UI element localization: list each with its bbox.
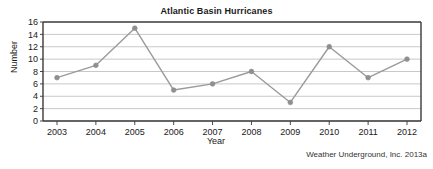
data-point-marker bbox=[249, 69, 254, 74]
y-tick-label: 6 bbox=[33, 79, 38, 89]
y-axis-ticks: 0246810121416 bbox=[28, 17, 43, 126]
x-tick-label: 2011 bbox=[358, 127, 377, 137]
y-tick-label: 0 bbox=[33, 116, 38, 126]
x-tick-label: 2007 bbox=[203, 127, 223, 137]
data-point-marker bbox=[366, 75, 371, 80]
x-tick-label: 2003 bbox=[47, 127, 67, 137]
y-tick-label: 8 bbox=[33, 67, 38, 77]
y-tick-label: 16 bbox=[28, 17, 38, 27]
data-point-marker bbox=[93, 63, 98, 68]
series-line bbox=[57, 28, 407, 102]
x-tick-label: 2005 bbox=[125, 127, 145, 137]
data-point-marker bbox=[288, 100, 293, 105]
x-tick-label: 2010 bbox=[319, 127, 339, 137]
data-point-marker bbox=[327, 44, 332, 49]
data-series bbox=[55, 26, 410, 105]
x-tick-label: 2009 bbox=[280, 127, 300, 137]
data-point-marker bbox=[171, 88, 176, 93]
y-tick-label: 2 bbox=[33, 104, 38, 114]
data-point-marker bbox=[405, 57, 410, 62]
x-tick-label: 2004 bbox=[86, 127, 106, 137]
line-chart-plot: 0246810121416 20032004200520062007200820… bbox=[0, 0, 433, 169]
y-tick-label: 14 bbox=[28, 30, 38, 40]
x-tick-label: 2008 bbox=[241, 127, 261, 137]
x-tick-label: 2006 bbox=[164, 127, 184, 137]
x-axis-ticks: 2003200420052006200720082009201020112012 bbox=[47, 121, 417, 137]
chart-figure: Atlantic Basin Hurricanes Number Year We… bbox=[0, 0, 433, 169]
data-point-marker bbox=[55, 75, 60, 80]
y-tick-label: 4 bbox=[33, 91, 38, 101]
data-point-marker bbox=[210, 81, 215, 86]
data-point-marker bbox=[132, 26, 137, 31]
y-tick-label: 10 bbox=[28, 54, 38, 64]
y-tick-label: 12 bbox=[28, 42, 38, 52]
x-tick-label: 2012 bbox=[397, 127, 417, 137]
